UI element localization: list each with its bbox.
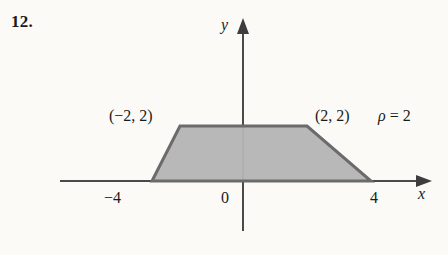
coordinate-plot bbox=[0, 0, 448, 255]
label-left-vertex: (−2, 2) bbox=[109, 108, 153, 124]
density-equation: = 2 bbox=[386, 107, 411, 124]
y-axis-arrowhead bbox=[237, 18, 249, 34]
rho-symbol: ρ bbox=[378, 107, 386, 124]
x-tick-label-neg4: −4 bbox=[104, 190, 121, 206]
label-right-vertex: (2, 2) bbox=[315, 108, 350, 124]
x-tick-label-zero: 0 bbox=[221, 190, 229, 206]
trapezoid-region bbox=[152, 126, 371, 181]
y-axis-label: y bbox=[221, 17, 228, 33]
label-density: ρ = 2 bbox=[378, 108, 411, 124]
x-axis-label: x bbox=[418, 186, 425, 202]
figure-container: 12. (−2, 2) (2, 2) ρ = 2 −4 0 4 y x bbox=[0, 0, 448, 255]
x-tick-label-pos4: 4 bbox=[370, 190, 378, 206]
problem-number: 12. bbox=[11, 13, 33, 30]
